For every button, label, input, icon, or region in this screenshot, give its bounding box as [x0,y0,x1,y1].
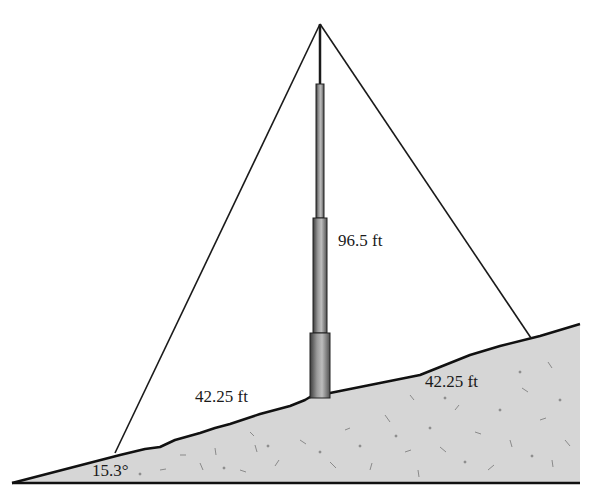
tower-height-label: 96.5 ft [338,231,382,251]
right-distance-label: 42.25 ft [425,372,478,392]
slope-angle-label: 15.3° [92,461,129,481]
ground-slope [12,324,580,483]
left-distance-label: 42.25 ft [195,387,248,407]
tower [310,24,330,398]
tower-slope-diagram [0,0,590,494]
right-guy-wire [320,24,531,338]
